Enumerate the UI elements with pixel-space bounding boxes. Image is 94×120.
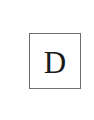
letter-tile[interactable]: D bbox=[29, 33, 81, 89]
letter-label: D bbox=[44, 47, 66, 78]
